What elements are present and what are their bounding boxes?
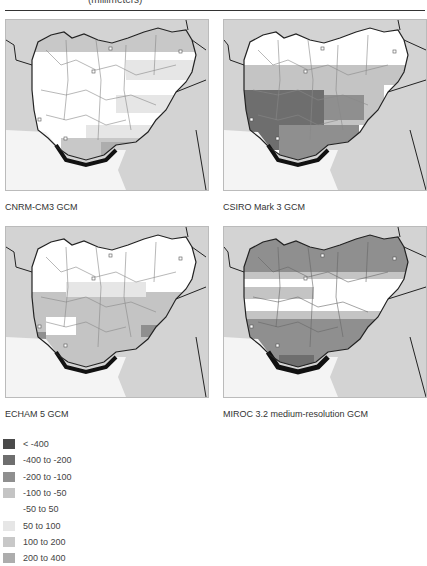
- legend-swatch: [3, 521, 15, 531]
- panel-caption-csiro: CSIRO Mark 3 GCM: [223, 202, 305, 212]
- panel-caption-echam: ECHAM 5 GCM: [5, 409, 69, 419]
- panel-caption-cnrm: CNRM-CM3 GCM: [5, 202, 78, 212]
- legend-item: -200 to -100: [3, 469, 72, 485]
- legend: < -400 -400 to -200 -200 to -100 -100 to…: [3, 436, 72, 566]
- legend-item: -100 to -50: [3, 485, 72, 501]
- legend-swatch: [3, 472, 15, 482]
- legend-label: 200 to 400: [23, 553, 66, 563]
- legend-item: 50 to 100: [3, 517, 72, 533]
- title-rule: [5, 10, 425, 11]
- legend-swatch: [3, 439, 15, 449]
- map-panel-cnrm: [5, 19, 209, 191]
- legend-label: 50 to 100: [23, 521, 61, 531]
- legend-swatch: [3, 455, 15, 465]
- panel-caption-miroc: MIROC 3.2 medium-resolution GCM: [223, 409, 368, 419]
- legend-label: -50 to 50: [23, 504, 59, 514]
- legend-item: -400 to -200: [3, 452, 72, 468]
- subtitle: (millimeters): [88, 0, 142, 5]
- legend-label: 100 to 200: [23, 537, 66, 547]
- map-panel-miroc: [223, 226, 427, 398]
- legend-item: 200 to 400: [3, 550, 72, 566]
- legend-swatch: [3, 488, 15, 498]
- legend-swatch: [3, 504, 15, 514]
- legend-label: -100 to -50: [23, 488, 67, 498]
- legend-label: -200 to -100: [23, 472, 72, 482]
- map-panel-csiro: [223, 19, 427, 191]
- legend-swatch: [3, 553, 15, 563]
- legend-item: -50 to 50: [3, 501, 72, 517]
- legend-swatch: [3, 537, 15, 547]
- legend-label: -400 to -200: [23, 455, 72, 465]
- legend-item: 100 to 200: [3, 534, 72, 550]
- legend-label: < -400: [23, 439, 49, 449]
- map-panel-echam: [5, 226, 209, 398]
- legend-item: < -400: [3, 436, 72, 452]
